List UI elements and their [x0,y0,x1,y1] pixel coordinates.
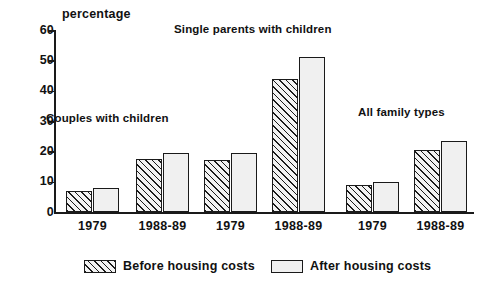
bar-before-housing-costs [204,160,230,212]
legend-label: After housing costs [310,260,431,273]
bar-after-housing-costs [163,153,189,212]
y-tick-20: 20 [0,146,54,157]
group-annotation-label: Single parents with children [174,23,332,35]
group-annotation-label: Couples with children [46,112,169,124]
bar-after-housing-costs [373,182,399,212]
bar-group [346,30,399,212]
bar-after-housing-costs [441,141,467,212]
bar-before-housing-costs [272,79,298,212]
y-tick-0: 0 [0,207,54,218]
bar-group [272,30,325,212]
bar-before-housing-costs [136,159,162,212]
group-annotation-label: All family types [358,106,445,118]
chart-legend: Before housing costsAfter housing costs [0,258,495,282]
bar-before-housing-costs [346,185,372,212]
x-axis-line [54,212,474,214]
legend-label: Before housing costs [123,260,255,273]
bar-before-housing-costs [414,150,440,212]
bar-before-housing-costs [66,191,92,212]
bar-after-housing-costs [93,188,119,212]
y-tick-50: 50 [0,55,54,66]
bar-chart: percentage 6050403020100 19791988-891979… [0,0,495,290]
y-tick-60: 60 [0,25,54,36]
bar-after-housing-costs [231,153,257,212]
x-axis-tick-label: 1988-89 [396,219,486,233]
legend-swatch-after [271,260,303,273]
y-tick-10: 10 [0,176,54,187]
y-tick-40: 40 [0,85,54,96]
y-tick-label: 0 [10,207,54,218]
bar-after-housing-costs [299,57,325,212]
y-axis-title: percentage [62,7,131,21]
legend-swatch-before [84,260,116,273]
bar-group [414,30,467,212]
bar-group [204,30,257,212]
